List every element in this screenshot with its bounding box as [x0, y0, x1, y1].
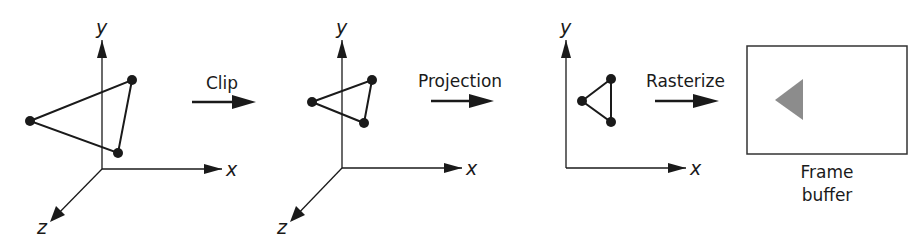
vertex-dot: [577, 96, 587, 106]
x-axis-label: x: [689, 157, 702, 179]
x-axis-arrow-icon: [204, 164, 222, 174]
right-arrow-head-icon: [469, 94, 494, 108]
frame-buffer-label-line2: buffer: [802, 185, 853, 205]
right-arrow-head-icon: [693, 94, 719, 108]
z-axis-label: z: [36, 216, 48, 238]
step-label-clip: Clip: [206, 73, 238, 93]
x-axis-arrow-icon: [668, 163, 686, 173]
frame-buffer-label-line1: Frame: [801, 162, 854, 182]
y-axis-label: y: [95, 16, 108, 38]
frame-buffer-box: [747, 46, 907, 154]
step-label-rasterize: Rasterize: [646, 71, 725, 91]
vertex-dot: [359, 118, 369, 128]
step-rasterize: Rasterize: [646, 71, 725, 108]
axes-3d: [50, 40, 222, 222]
panel-3d-scene-clipped: y x z: [276, 16, 478, 238]
triangle: [577, 74, 616, 127]
y-axis-arrow-icon: [337, 40, 347, 58]
vertex-dot: [307, 97, 317, 107]
step-label-projection: Projection: [418, 71, 502, 91]
panel-3d-scene-input: y x z: [25, 16, 238, 238]
x-axis-label: x: [465, 157, 478, 179]
triangle: [25, 75, 137, 158]
y-axis-label: y: [335, 16, 348, 38]
frame-buffer: Frame buffer: [747, 46, 907, 205]
vertex-dot: [606, 74, 616, 84]
y-axis-label: y: [559, 16, 572, 38]
z-axis-label: z: [276, 216, 288, 238]
vertex-dot: [113, 148, 123, 158]
vertex-dot: [25, 116, 35, 126]
step-clip: Clip: [192, 73, 256, 109]
y-axis-arrow-icon: [561, 40, 571, 58]
step-projection: Projection: [418, 71, 502, 108]
vertex-dot: [367, 75, 377, 85]
panel-2d-projected: y x: [559, 16, 702, 179]
x-axis-label: x: [225, 158, 238, 180]
right-arrow-head-icon: [232, 95, 256, 109]
x-axis-arrow-icon: [444, 163, 462, 173]
graphics-pipeline-diagram: y x z Clip y x z: [0, 0, 922, 240]
vertex-dot: [606, 117, 616, 127]
y-axis-arrow-icon: [97, 40, 107, 58]
vertex-dot: [127, 75, 137, 85]
